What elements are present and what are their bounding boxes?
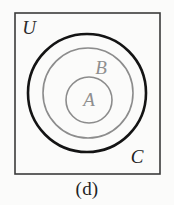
venn-diagram-canvas: U B A C (0, 0, 174, 205)
set-c-label: C (131, 146, 144, 167)
set-a-label: A (81, 89, 95, 110)
venn-diagram-figure: U B A C (d) (0, 0, 174, 205)
set-b-label: B (95, 57, 107, 78)
universe-label: U (22, 17, 37, 38)
figure-caption: (d) (0, 178, 174, 200)
